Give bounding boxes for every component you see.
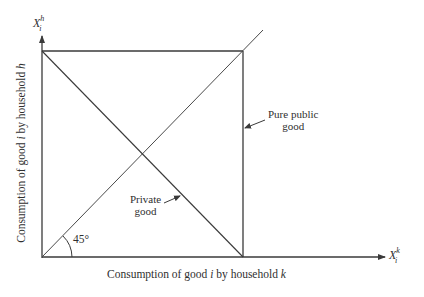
x-title-mid: by household	[213, 268, 280, 280]
public-good-pointer	[245, 120, 265, 128]
x-var-subscript: i	[395, 256, 397, 265]
public-good-label-line1: Pure public	[268, 108, 318, 120]
x-axis-title: Consumption of good i by household k	[107, 268, 286, 280]
y-title-var: i	[15, 136, 27, 139]
y-title-pre: Consumption of good	[15, 140, 27, 243]
angle-arc	[63, 236, 72, 257]
x-title-household: k	[281, 268, 286, 280]
private-good-label: Private good	[130, 193, 161, 217]
private-good-label-line1: Private	[130, 193, 161, 205]
private-good-label-line2: good	[130, 205, 161, 217]
x-axis-variable: Xki	[389, 247, 402, 264]
y-title-household: h	[15, 63, 27, 69]
angle-label: 45°	[73, 233, 89, 245]
y-var-subscript: i	[39, 24, 41, 33]
y-var-superscript: h	[40, 14, 44, 23]
consumption-box-diagram	[0, 0, 424, 297]
public-good-label-line2: good	[268, 120, 318, 132]
y-axis-variable: Xhi	[33, 15, 47, 32]
diagonal-45-line	[42, 30, 263, 257]
public-good-label: Pure public good	[268, 108, 318, 132]
y-axis-title: Consumption of good i by household h	[15, 63, 27, 243]
y-title-mid: by household	[15, 69, 27, 136]
x-var-superscript: k	[396, 246, 400, 255]
private-good-pointer	[164, 196, 180, 203]
x-title-pre: Consumption of good	[107, 268, 210, 280]
